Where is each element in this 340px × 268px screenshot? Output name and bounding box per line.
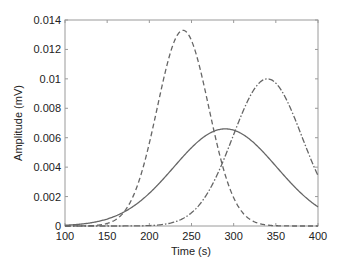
x-axis-ticks: 100150200250300350400: [56, 20, 327, 242]
x-tick-label: 150: [98, 230, 116, 242]
x-tick-label: 400: [309, 230, 327, 242]
data-series: [65, 30, 318, 226]
x-tick-label: 250: [182, 230, 200, 242]
y-tick-label: 0.006: [33, 132, 61, 144]
chart: 100150200250300350400 00.0020.0040.0060.…: [0, 0, 340, 268]
series-solid-line: [65, 129, 318, 225]
y-tick-label: 0.01: [40, 73, 61, 85]
y-tick-label: 0: [55, 220, 61, 232]
y-tick-label: 0.012: [33, 43, 61, 55]
x-tick-label: 300: [224, 230, 242, 242]
y-axis-ticks: 00.0020.0040.0060.0080.010.0120.014: [33, 14, 318, 232]
x-tick-label: 350: [267, 230, 285, 242]
series-dash-dot-line: [65, 79, 318, 226]
y-tick-label: 0.002: [33, 191, 61, 203]
y-tick-label: 0.004: [33, 161, 61, 173]
y-tick-label: 0.008: [33, 102, 61, 114]
y-axis-label: Amplitude (mV): [12, 85, 24, 161]
x-axis-label: Time (s): [171, 245, 211, 257]
plot-area-frame: [65, 20, 318, 226]
axes-frame: [65, 20, 318, 226]
y-tick-label: 0.014: [33, 14, 61, 26]
series-dashed-line: [65, 30, 318, 226]
x-tick-label: 200: [140, 230, 158, 242]
